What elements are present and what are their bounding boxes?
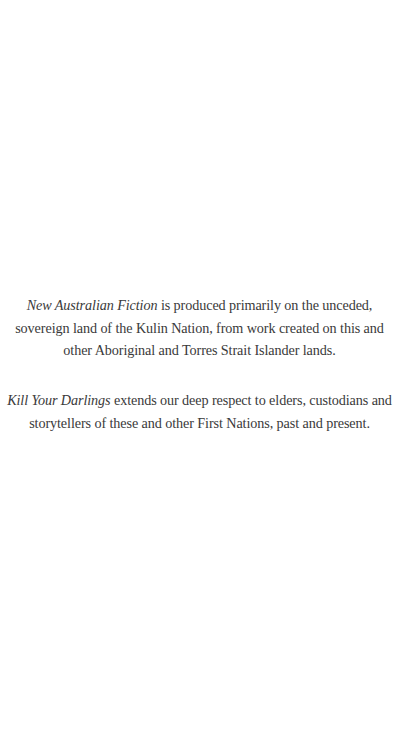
text-line: storytellers of these and other First Na… bbox=[0, 412, 399, 435]
publisher-name: Kill Your Darlings bbox=[7, 392, 110, 408]
text-line: Kill Your Darlings extends our deep resp… bbox=[0, 389, 399, 412]
text-line: other Aboriginal and Torres Strait Islan… bbox=[0, 339, 399, 362]
acknowledgement-paragraph-respect: Kill Your Darlings extends our deep resp… bbox=[0, 389, 399, 434]
text-line: New Australian Fiction is produced prima… bbox=[0, 294, 399, 317]
page: New Australian Fiction is produced prima… bbox=[0, 0, 399, 749]
text-line: sovereign land of the Kulin Nation, from… bbox=[0, 317, 399, 340]
publication-title: New Australian Fiction bbox=[27, 297, 158, 313]
acknowledgement-paragraph-production: New Australian Fiction is produced prima… bbox=[0, 294, 399, 362]
